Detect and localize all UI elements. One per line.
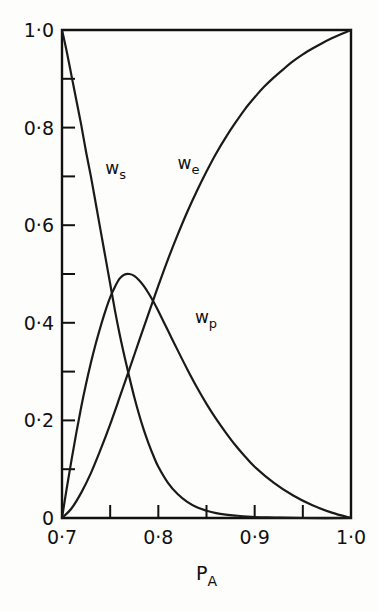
y-axis-tick-label: 0·6	[24, 214, 54, 236]
x-axis-title: PA	[196, 562, 217, 589]
y-axis-tick-label: 0·4	[24, 312, 54, 334]
x-axis-title-main: P	[196, 562, 207, 584]
chart-plot-area: 00·20·40·60·81·00·70·80·91·0PAwswpwe	[0, 0, 378, 612]
plot-frame	[62, 30, 351, 518]
x-axis-tick-label: 0·9	[240, 526, 270, 548]
curve-w-s	[62, 30, 351, 518]
x-axis-tick-label: 1·0	[336, 526, 366, 548]
y-axis-tick-label: 0·2	[24, 409, 54, 431]
curve-label-w-p: wp	[195, 307, 217, 331]
chart-figure: 00·20·40·60·81·00·70·80·91·0PAwswpwe	[0, 0, 378, 612]
y-axis-tick-label: 0·8	[24, 117, 54, 139]
curve-w-e	[62, 30, 351, 518]
y-axis-tick-label: 1·0	[24, 19, 54, 41]
curve-label-w-e: we	[178, 153, 200, 177]
x-axis-title-subscript: A	[207, 573, 217, 589]
x-axis-tick-label: 0·7	[47, 526, 77, 548]
x-axis-tick-label: 0·8	[143, 526, 173, 548]
curve-label-w-s: ws	[105, 158, 126, 182]
